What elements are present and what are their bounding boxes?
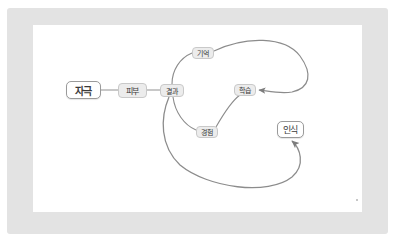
node-label: 경험: [201, 127, 212, 137]
node-gieok[interactable]: 기억: [192, 47, 214, 59]
node-haksup[interactable]: 학습: [234, 84, 256, 96]
node-label: 학습: [239, 85, 250, 95]
canvas-dot: [356, 199, 358, 201]
node-jagueuk[interactable]: 자극: [66, 81, 101, 99]
node-label: 인식: [283, 123, 298, 136]
diagram-screenshot: 자극 피부 결과 기억 학습 경험 인식: [0, 0, 395, 241]
node-gyeolgwa[interactable]: 결과: [160, 84, 184, 97]
node-insik[interactable]: 인식: [277, 121, 304, 138]
node-pibu[interactable]: 피부: [118, 83, 147, 98]
node-label: 피부: [126, 85, 139, 96]
node-label: 기억: [197, 48, 208, 58]
node-gyeongheom[interactable]: 경험: [196, 126, 218, 138]
node-label: 자극: [75, 83, 92, 98]
node-label: 결과: [166, 86, 177, 96]
